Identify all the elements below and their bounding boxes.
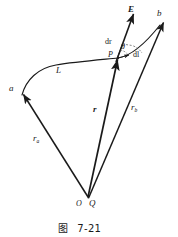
label-element-dl: dl <box>133 51 139 59</box>
curve-L-segment-a-to-P <box>22 58 118 95</box>
label-rb-subscript: b <box>135 107 138 113</box>
label-radial-vector-rb: rb <box>131 103 137 112</box>
label-ra-base: r <box>33 133 37 143</box>
segment-dl <box>118 55 129 58</box>
point-P-marker <box>117 58 119 60</box>
figure-container: E b dr θ P dl L a r rb ra O Q 图7-21 <box>0 0 178 237</box>
label-rb-base: r <box>131 102 135 112</box>
label-displacement-dr: dr <box>105 38 112 46</box>
label-curve-L: L <box>56 66 61 75</box>
label-ra-subscript: a <box>37 138 40 144</box>
caption-number: 7-21 <box>77 223 101 234</box>
figure-caption: 图7-21 <box>58 220 101 235</box>
label-origin-O: O <box>76 200 82 208</box>
label-radial-vector-ra: ra <box>33 134 39 143</box>
label-radial-vector-r: r <box>93 105 97 114</box>
vector-r <box>88 60 118 197</box>
label-point-b: b <box>157 9 162 18</box>
label-point-a: a <box>9 84 14 93</box>
vector-r-a <box>24 95 89 198</box>
label-angle-theta: θ <box>121 43 125 51</box>
label-point-P: P <box>108 51 113 59</box>
vector-r-b <box>89 23 164 198</box>
caption-label: 图 <box>58 223 68 234</box>
label-charge-Q: Q <box>89 199 96 208</box>
label-field-vector-E: E <box>128 5 134 14</box>
